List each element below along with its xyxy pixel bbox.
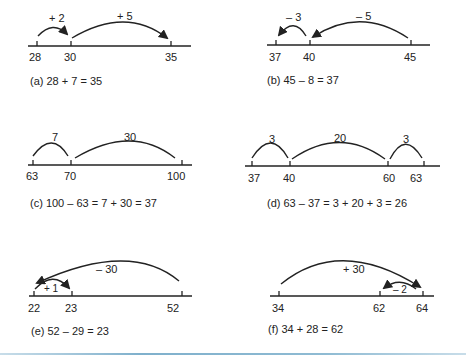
panel-caption: (c) 100 – 63 = 7 + 30 = 37 (30, 197, 157, 209)
tick-label: 64 (416, 302, 428, 314)
tick-label: 52 (167, 302, 179, 314)
jump-arrow-icon (38, 27, 67, 36)
number-line-figure: 28 30 35 + 2 + 5 (a) 28 + 7 = 35 37 40 4… (0, 0, 466, 360)
jump-label: 30 (124, 131, 136, 143)
jump-arc (252, 143, 288, 158)
jump-arrow-icon (313, 22, 408, 38)
panel-f: 34 62 64 + 30 – 2 (f) 34 + 28 = 62 (268, 261, 434, 335)
tick-label: 70 (64, 170, 76, 182)
panel-c: 63 70 100 7 30 (c) 100 – 63 = 7 + 30 = 3… (26, 131, 192, 209)
jump-label: + 1 (44, 283, 59, 294)
tick-label: 62 (373, 302, 385, 314)
panel-caption: (d) 63 – 37 = 3 + 20 + 3 = 26 (267, 197, 407, 209)
panel-b: 37 40 45 – 3 – 5 (b) 45 – 8 = 37 (267, 10, 430, 86)
jump-arc (75, 141, 175, 158)
tick-label: 35 (165, 51, 177, 63)
panel-caption: (a) 28 + 7 = 35 (30, 75, 102, 87)
tick-label: 34 (272, 302, 284, 314)
tick-label: 22 (28, 302, 40, 314)
tick-label: 63 (26, 170, 38, 182)
jump-label: + 30 (343, 263, 365, 275)
tick-label: 45 (404, 51, 416, 63)
panel-caption: (e) 52 – 29 = 23 (31, 325, 109, 337)
jump-arrow-icon (72, 22, 167, 38)
jump-label: 3 (403, 133, 409, 145)
jump-label: + 2 (49, 12, 65, 24)
tick-label: 40 (303, 51, 315, 63)
jump-label: + 5 (117, 10, 133, 22)
jump-label: – 30 (96, 263, 117, 275)
tick-label: 37 (269, 51, 281, 63)
jump-label: 20 (334, 132, 346, 144)
jump-label: – 5 (356, 10, 371, 22)
jump-arc (390, 144, 422, 159)
panel-a: 28 30 35 + 2 + 5 (a) 28 + 7 = 35 (28, 10, 191, 87)
jump-label: 7 (52, 131, 58, 143)
tick-label: 30 (64, 51, 76, 63)
jump-arrow-icon (279, 26, 306, 36)
panel-d: 37 40 60 63 3 20 3 (d) 63 – 37 = 3 + 20 … (245, 132, 440, 209)
jump-label: – 2 (393, 284, 407, 295)
panel-e: 22 23 52 – 30 + 1 (e) 52 – 29 = 23 (28, 261, 192, 337)
tick-label: 40 (283, 172, 295, 184)
tick-label: 60 (383, 172, 395, 184)
tick-label: 63 (410, 172, 422, 184)
panel-caption: (f) 34 + 28 = 62 (268, 323, 343, 335)
tick-label: 37 (248, 172, 260, 184)
tick-label: 100 (167, 170, 185, 182)
tick-label: 23 (65, 302, 77, 314)
jump-label: 3 (269, 133, 275, 145)
jump-label: – 3 (286, 11, 301, 23)
bottom-divider (0, 353, 466, 355)
jump-arc (33, 143, 68, 156)
panel-caption: (b) 45 – 8 = 37 (267, 74, 339, 86)
jump-arc (292, 143, 385, 160)
tick-label: 28 (29, 51, 41, 63)
